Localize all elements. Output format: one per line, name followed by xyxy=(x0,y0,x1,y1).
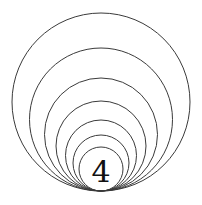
circles-canvas: 4 xyxy=(0,0,202,205)
circle-figure: 4 xyxy=(0,0,202,205)
circle-number-label: 4 xyxy=(91,154,110,189)
